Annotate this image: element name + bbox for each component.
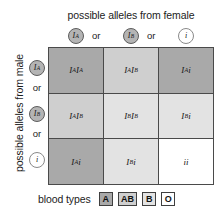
allele-chip-i-female: i: [178, 28, 194, 44]
punnett-cell-IBi: IBi: [104, 139, 158, 184]
allele-chip-IA-male: IA: [29, 60, 45, 76]
left-allele-slot-1: IA: [26, 60, 48, 76]
left-axis-title: possible alleles from male: [13, 38, 25, 188]
top-axis-title: possible alleles from female: [46, 9, 216, 21]
genotype-allele: I: [126, 157, 129, 167]
legend-swatch-AB: AB: [118, 192, 138, 206]
genotype-allele: I: [71, 157, 74, 167]
legend-swatch-A: A: [99, 192, 113, 206]
genotype-allele: i: [188, 111, 191, 121]
punnett-square-diagram: possible alleles from female IA IB i or …: [0, 0, 216, 212]
punnett-cell-IAi: IAi: [159, 48, 213, 93]
allele-chip-i-male: i: [29, 152, 45, 168]
genotype-allele: i: [133, 157, 136, 167]
top-allele-header: IA IB i or or: [48, 26, 214, 46]
punnett-cell-IAIB: IAIB: [104, 48, 158, 93]
allele-chip-IB-male: IB: [29, 106, 45, 122]
left-allele-slot-3: i: [26, 152, 48, 168]
genotype-allele: i: [186, 157, 189, 167]
allele-symbol: i: [185, 32, 187, 40]
allele-symbol: i: [36, 156, 38, 164]
punnett-cell-ii: ii: [159, 139, 213, 184]
punnett-cell-IBi: IBi: [159, 94, 213, 139]
top-separator-2: or: [147, 30, 155, 41]
legend-swatch-B: B: [142, 192, 156, 206]
top-allele-slot-3: i: [159, 28, 214, 44]
allele-chip-IA-female: IA: [68, 28, 84, 44]
punnett-cell-IBIB: IBIB: [104, 94, 158, 139]
left-separator-2: or: [26, 128, 48, 139]
legend-swatch-O: O: [161, 192, 175, 206]
left-allele-slot-2: IB: [26, 106, 48, 122]
legend-label: blood types: [38, 193, 91, 205]
punnett-cell-IAi: IAi: [49, 139, 103, 184]
genotype-allele: i: [188, 65, 191, 75]
punnett-cell-IAIB: IAIB: [49, 94, 103, 139]
punnett-grid: IAIAIAIBIAiIAIBIBIBIBiIAiIBiii: [48, 47, 214, 185]
top-separator-1: or: [92, 30, 100, 41]
genotype-allele: I: [181, 65, 184, 75]
blood-type-legend: blood types A AB B O: [38, 190, 180, 208]
genotype-allele: I: [181, 111, 184, 121]
allele-chip-IB-female: IB: [123, 28, 139, 44]
left-allele-header: IA or IB or i: [26, 47, 48, 185]
genotype-allele: i: [78, 157, 81, 167]
punnett-cell-IAIA: IAIA: [49, 48, 103, 93]
left-separator-1: or: [26, 82, 48, 93]
